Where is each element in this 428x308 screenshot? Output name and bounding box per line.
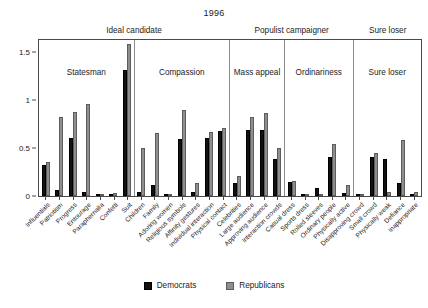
bar-republicans: [209, 132, 213, 196]
bar-republicans: [401, 140, 405, 196]
bar-republicans: [141, 148, 145, 196]
category-bar-pair: [191, 40, 199, 196]
y-tick-mark-2: [32, 100, 36, 101]
category-bar-pair: [260, 40, 268, 196]
legend-item-democrats[interactable]: Democrats: [144, 281, 197, 290]
category-bar-pair: [342, 40, 350, 196]
x-tick-mark: [291, 197, 292, 200]
bar-republicans: [59, 117, 63, 196]
bars-group: [230, 40, 284, 196]
bar-republicans: [155, 133, 159, 196]
x-label-panel-1: ChildrenFamilyAdoring womenReligious sym…: [135, 201, 231, 271]
legend-item-republicans[interactable]: Republicans: [226, 281, 284, 290]
category-bar-pair: [288, 40, 296, 196]
legend-label: Republicans: [239, 281, 284, 290]
category-bar-pair: [370, 40, 378, 196]
category-bar-pair: [82, 40, 90, 196]
bar-republicans: [346, 185, 350, 196]
x-tick-mark: [345, 197, 346, 200]
category-bar-pair: [397, 40, 405, 196]
category-bar-pair: [109, 40, 117, 196]
supergroup-label-1: Populist campaigner: [230, 24, 353, 37]
x-tick-mark: [250, 197, 251, 200]
bar-republicans: [168, 194, 172, 196]
category-bar-pair: [164, 40, 172, 196]
panel-compassion: Compassion: [134, 40, 230, 196]
chart-container: 1996 Ideal candidatePopulist campaignerS…: [0, 0, 428, 308]
category-bar-pair: [356, 40, 364, 196]
x-tick-mark: [127, 197, 128, 200]
y-axis-tick-1: 0.5: [19, 143, 38, 152]
category-bar-pair: [123, 40, 131, 196]
x-tick-mark: [59, 197, 60, 200]
category-bar-pair: [233, 40, 241, 196]
bar-republicans: [113, 193, 117, 196]
bar-republicans: [237, 176, 241, 196]
bar-republicans: [387, 192, 391, 196]
x-label-panel-0: InfluentialsPatriotismProgressEntourageP…: [39, 201, 135, 271]
y-tick-mark-0: [32, 196, 36, 197]
panel-ordinariness: Ordinariness: [284, 40, 353, 196]
x-axis-label-row: InfluentialsPatriotismProgressEntourageP…: [39, 201, 421, 271]
panel-statesman: Statesman: [39, 40, 134, 196]
y-tick-mark-1: [32, 148, 36, 149]
y-axis-tick-3: 1.5: [19, 47, 38, 56]
bar-republicans: [360, 194, 364, 196]
bar-republicans: [414, 192, 418, 196]
bar-republicans: [277, 148, 281, 196]
panel-row: StatesmanCompassionMass appealOrdinarine…: [39, 40, 421, 196]
bar-republicans: [100, 194, 104, 196]
x-label-panel-4: Disapproving crowdSmall crowdPhysically …: [353, 201, 421, 271]
category-bar-pair: [42, 40, 50, 196]
bar-republicans: [86, 104, 90, 196]
x-tick-mark: [100, 197, 101, 200]
category-bar-pair: [273, 40, 281, 196]
bar-republicans: [264, 113, 268, 196]
category-bar-pair: [178, 40, 186, 196]
x-tick-mark: [305, 197, 306, 200]
bars-group: [285, 40, 353, 196]
bar-republicans: [250, 117, 254, 196]
x-tick-mark: [154, 197, 155, 200]
bars-group: [135, 40, 230, 196]
category-bar-pair: [301, 40, 309, 196]
bar-republicans: [292, 181, 296, 196]
bar-republicans: [127, 44, 131, 196]
x-tick-mark: [236, 197, 237, 200]
y-axis: 00.511.5: [0, 39, 38, 197]
x-tick-mark: [332, 197, 333, 200]
y-axis-tick-0: 0: [26, 192, 38, 201]
category-bar-pair: [328, 40, 336, 196]
category-bar-pair: [218, 40, 226, 196]
bars-group: [354, 40, 422, 196]
category-bar-pair: [55, 40, 63, 196]
x-tick-mark: [373, 197, 374, 200]
bar-democrats: [383, 159, 387, 196]
supergroup-label-2: Sure loser: [353, 24, 422, 37]
y-tick-mark-3: [32, 51, 36, 52]
supergroup-label-0: Ideal candidate: [38, 24, 230, 37]
x-tick-mark: [182, 197, 183, 200]
bar-republicans: [182, 110, 186, 196]
y-axis-tick-2: 1: [26, 95, 38, 104]
chart-title: 1996: [0, 8, 428, 18]
x-label-panel-2: CelebritiesLarge audienceApproving audie…: [230, 201, 285, 271]
x-tick-mark: [264, 197, 265, 200]
bar-republicans: [305, 194, 309, 196]
category-bar-pair: [151, 40, 159, 196]
category-bar-pair: [69, 40, 77, 196]
bar-republicans: [195, 183, 199, 196]
category-bar-pair: [315, 40, 323, 196]
bar-republicans: [332, 144, 336, 196]
legend-label: Democrats: [157, 281, 197, 290]
panel-mass-appeal: Mass appeal: [229, 40, 284, 196]
category-bar-pair: [96, 40, 104, 196]
x-tick-mark: [414, 197, 415, 200]
legend-swatch-democrats: [144, 282, 152, 290]
x-tick-mark: [86, 197, 87, 200]
chart-legend: DemocratsRepublicans: [0, 281, 428, 290]
category-bar-pair: [410, 40, 418, 196]
panel-sure-loser: Sure loser: [353, 40, 422, 196]
x-label-panel-3: Casual dressSports dressRolled sleevesOr…: [285, 201, 353, 271]
bar-republicans: [222, 128, 226, 196]
